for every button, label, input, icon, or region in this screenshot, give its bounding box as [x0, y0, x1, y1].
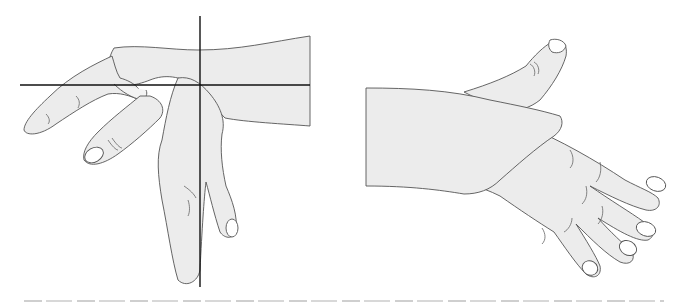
dorsal-hand-drawing	[340, 0, 680, 292]
figure-caption-text	[24, 300, 664, 302]
left-hand-illustration	[0, 0, 340, 292]
figure-caption	[24, 300, 664, 306]
right-hand-illustration	[340, 0, 680, 292]
wrist-flexion-drawing	[0, 0, 340, 292]
figure	[0, 0, 680, 306]
